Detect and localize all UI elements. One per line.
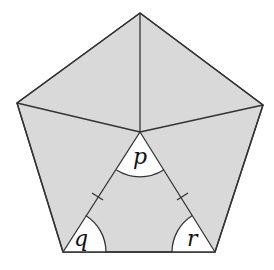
angle-label-p: p: [133, 144, 147, 169]
angle-label-q: q: [74, 226, 88, 251]
pentagon-diagram: p q r: [0, 0, 274, 270]
angle-label-r: r: [187, 226, 199, 251]
